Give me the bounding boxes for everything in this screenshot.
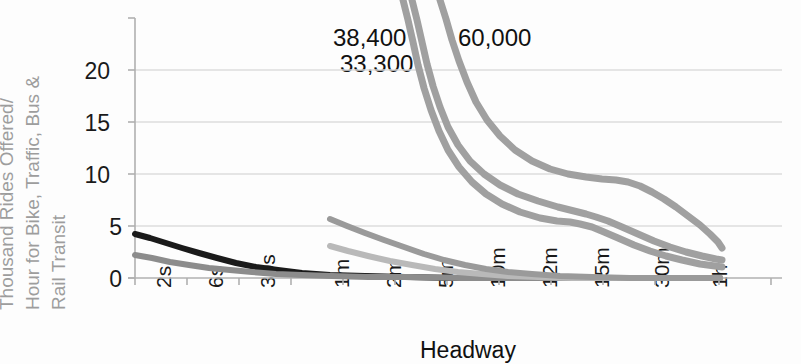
y-axis-ticks (128, 18, 135, 278)
data-series-group (135, 0, 722, 278)
chart-container: Thousand Rides Offered/ Hour for Bike, T… (0, 0, 801, 364)
series-line-bus-rapid (330, 219, 720, 278)
plot-area (0, 0, 801, 364)
